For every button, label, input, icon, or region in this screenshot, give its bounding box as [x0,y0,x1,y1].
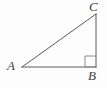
vertex-label-b: B [88,69,96,82]
right-angle-marker-icon [85,56,96,67]
vertex-label-c: C [89,0,98,13]
vertex-label-a: A [7,59,15,72]
geometry-figure: A B C [0,0,107,88]
